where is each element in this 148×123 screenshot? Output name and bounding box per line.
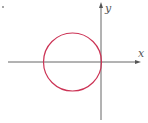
- x-axis-arrow-icon: [135, 60, 141, 64]
- stray-dot: [2, 6, 4, 8]
- y-axis-arrow-icon: [99, 2, 103, 8]
- y-axis-label: y: [104, 2, 112, 15]
- x-axis-label: x: [138, 47, 145, 60]
- coordinate-diagram: y x: [0, 0, 148, 123]
